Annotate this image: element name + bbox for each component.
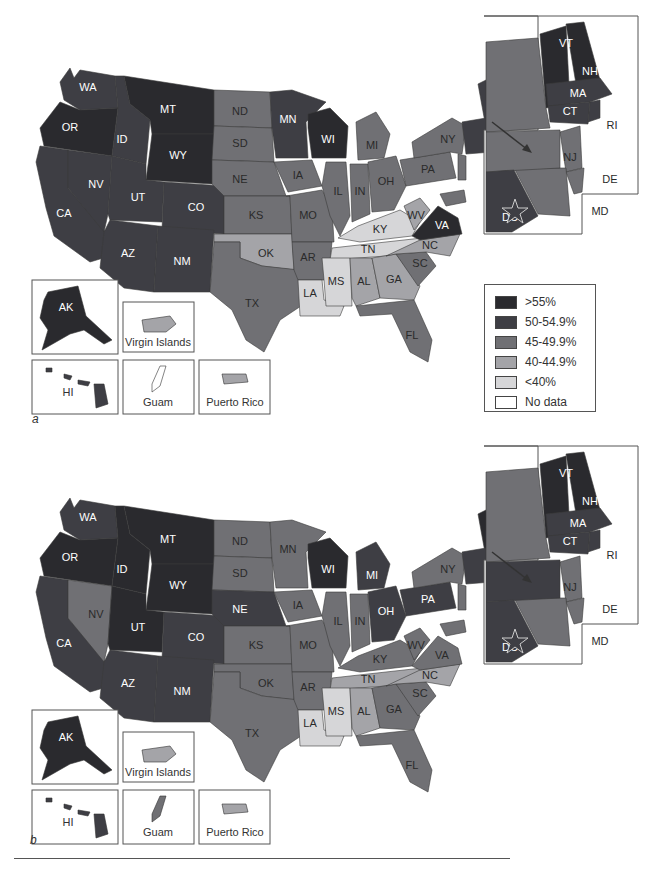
state-label: MO: [299, 209, 317, 221]
legend-label: 45-49.9%: [525, 335, 576, 349]
state-label: GA: [386, 703, 403, 715]
state-label: OK: [258, 247, 275, 259]
legend-item: No data: [495, 395, 567, 409]
state-label: OR: [62, 551, 79, 563]
state-ne: [212, 590, 286, 626]
state-label: OH: [378, 605, 395, 617]
state-label: VT: [559, 37, 573, 49]
inset-state-ri: [588, 100, 600, 122]
state-label: IA: [293, 169, 304, 181]
state-label: WY: [169, 149, 187, 161]
state-label: NJ: [563, 151, 576, 163]
state-md: [440, 190, 466, 206]
state-label: NE: [232, 603, 247, 615]
state-label: AL: [357, 705, 370, 717]
state-label: IL: [333, 615, 342, 627]
state-label: NC: [422, 669, 438, 681]
state-label: DE: [602, 603, 617, 615]
hawaii-label: HI: [63, 386, 74, 398]
state-label: RI: [607, 549, 618, 561]
legend-swatch: [495, 316, 517, 329]
state-label: MS: [328, 705, 345, 717]
legend-item: 50-54.9%: [495, 315, 576, 329]
state-label: GA: [386, 273, 403, 285]
guam-label: Guam: [143, 396, 173, 408]
state-label: NM: [173, 255, 190, 267]
state-ny: [412, 548, 466, 588]
legend: >55% 50-54.9% 45-49.9% 40-44.9% <40% No …: [484, 284, 596, 412]
state-label: KS: [249, 209, 264, 221]
state-label: NM: [173, 685, 190, 697]
state-label: FL: [406, 329, 419, 341]
state-md: [440, 620, 466, 636]
legend-label: <40%: [525, 375, 556, 389]
state-label: OH: [378, 175, 395, 187]
state-label: DE: [602, 173, 617, 185]
state-label: MI: [366, 569, 378, 581]
state-label: AZ: [121, 247, 135, 259]
state-label: IN: [355, 185, 366, 197]
state-label: MN: [279, 113, 296, 125]
state-label: NH: [582, 65, 598, 77]
state-label: IA: [293, 599, 304, 611]
state-label: TX: [245, 727, 260, 739]
guam-label: Guam: [143, 826, 173, 838]
state-label: LA: [303, 287, 317, 299]
legend-label: No data: [525, 395, 567, 409]
us-map-b: WAORCANVIDMTWYUTCOAZNMNDSDNEKSOKTXMNIAMO…: [0, 430, 669, 850]
map-panel-b: WAORCANVIDMTWYUTCOAZNMNDSDNEKSOKTXMNIAMO…: [0, 430, 669, 850]
state-label: SC: [412, 257, 427, 269]
state-label: CA: [56, 637, 72, 649]
state-label: IL: [333, 185, 342, 197]
puerto-rico-label: Puerto Rico: [206, 396, 263, 408]
state-label: ID: [117, 563, 128, 575]
state-label: NY: [440, 563, 456, 575]
legend-swatch: [495, 376, 517, 389]
inset-state-ri: [588, 530, 600, 552]
state-label: TX: [245, 297, 260, 309]
state-label: NH: [582, 495, 598, 507]
legend-label: 40-44.9%: [525, 355, 576, 369]
state-label: KY: [373, 223, 388, 235]
virgin-islands-label: Virgin Islands: [125, 336, 191, 348]
state-label: FL: [406, 759, 419, 771]
inset-state-pa: [486, 130, 560, 172]
legend-swatch: [495, 296, 517, 309]
state-label: MO: [299, 639, 317, 651]
legend-swatch: [495, 356, 517, 369]
hawaii-inset: [32, 790, 118, 844]
puerto-rico-shape: [222, 374, 248, 384]
state-label: MT: [160, 103, 176, 115]
puerto-rico-shape: [222, 804, 248, 814]
state-label: UT: [131, 621, 146, 633]
state-label: WA: [79, 81, 97, 93]
state-ne: [212, 160, 286, 196]
caption-divider: [14, 858, 510, 859]
state-label: KY: [373, 653, 388, 665]
legend-swatch: [495, 336, 517, 349]
virgin-islands-label: Virgin Islands: [125, 766, 191, 778]
state-label: SC: [412, 687, 427, 699]
state-ny: [412, 118, 466, 158]
state-label: VA: [435, 649, 450, 661]
state-label: NV: [88, 608, 104, 620]
state-label: WI: [321, 133, 334, 145]
state-label: IN: [355, 615, 366, 627]
state-label: AR: [300, 251, 315, 263]
state-label: MN: [279, 543, 296, 555]
state-label: TN: [361, 673, 376, 685]
legend-label: 50-54.9%: [525, 315, 576, 329]
state-label: MS: [328, 275, 345, 287]
state-label: MA: [570, 517, 587, 529]
state-label: CO: [188, 631, 205, 643]
state-label: NE: [232, 173, 247, 185]
state-label: ND: [232, 535, 248, 547]
legend-item: 45-49.9%: [495, 335, 576, 349]
state-label: MD: [591, 635, 608, 647]
state-label: AZ: [121, 677, 135, 689]
puerto-rico-label: Puerto Rico: [206, 826, 263, 838]
state-label: TN: [361, 243, 376, 255]
state-label: KS: [249, 639, 264, 651]
state-label: NC: [422, 239, 438, 251]
hawaii-label: HI: [63, 816, 74, 828]
